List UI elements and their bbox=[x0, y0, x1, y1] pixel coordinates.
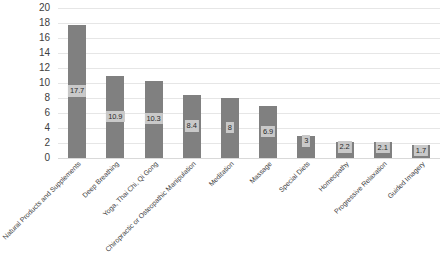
bar-value-label: 6.9 bbox=[261, 126, 275, 137]
x-axis-tick-label: Guided Imagery bbox=[279, 160, 426, 273]
bar-series: 17.710.910.38.486.932.22.11.7 bbox=[58, 8, 440, 158]
bar-chart: 20181614121086420 17.710.910.38.486.932.… bbox=[0, 0, 447, 273]
bar-group[interactable]: 2.2 bbox=[336, 142, 354, 159]
y-axis-tick-label: 2 bbox=[0, 138, 50, 148]
bar-value-label: 10.3 bbox=[144, 113, 162, 124]
y-axis-tick-label: 6 bbox=[0, 108, 50, 118]
bar-group[interactable]: 8.4 bbox=[183, 95, 201, 158]
y-axis-tick-label: 14 bbox=[0, 48, 50, 58]
bar-value-label: 2.1 bbox=[376, 142, 390, 153]
bar-group[interactable]: 2.1 bbox=[374, 142, 392, 158]
bar-value-label: 8.4 bbox=[185, 120, 199, 131]
x-axis-category-labels: Natural Products and SupplementsDeep Bre… bbox=[58, 160, 440, 273]
y-axis-tick-label: 16 bbox=[0, 33, 50, 43]
bar-group[interactable]: 10.9 bbox=[106, 76, 124, 158]
y-axis-tick-label: 8 bbox=[0, 93, 50, 103]
y-axis-tick-label: 4 bbox=[0, 123, 50, 133]
bar-value-label: 3 bbox=[302, 135, 310, 146]
bar-group[interactable]: 17.7 bbox=[68, 25, 86, 158]
y-axis-tick-label: 12 bbox=[0, 63, 50, 73]
bar-value-label: 1.7 bbox=[414, 145, 428, 156]
bar-value-label: 2.2 bbox=[337, 141, 351, 152]
bar-value-label: 10.9 bbox=[106, 111, 124, 122]
bar-group[interactable]: 8 bbox=[221, 98, 239, 158]
y-axis-tick-label: 0 bbox=[0, 153, 50, 163]
y-axis-tick-label: 18 bbox=[0, 18, 50, 28]
bar-group[interactable]: 10.3 bbox=[145, 81, 163, 158]
bar-value-label: 8 bbox=[226, 122, 234, 133]
bar-group[interactable]: 3 bbox=[297, 136, 315, 159]
bar-group[interactable]: 1.7 bbox=[412, 145, 430, 158]
plot-area: 17.710.910.38.486.932.22.11.7 bbox=[58, 8, 440, 158]
y-axis-tick-label: 10 bbox=[0, 78, 50, 88]
y-axis-tick-label: 20 bbox=[0, 3, 50, 13]
bar-group[interactable]: 6.9 bbox=[259, 106, 277, 158]
bar-value-label: 17.7 bbox=[68, 85, 86, 96]
